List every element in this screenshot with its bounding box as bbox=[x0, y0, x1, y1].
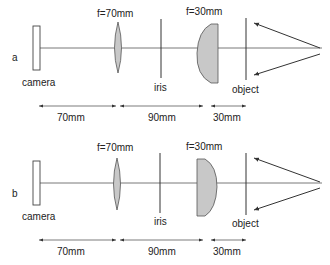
camera-label: camera bbox=[22, 211, 56, 222]
light-ray-arrow-bottom bbox=[254, 54, 320, 75]
panel-b: b camera f=70mm iris f=30mm object 70mm … bbox=[12, 141, 322, 257]
iris-label: iris bbox=[154, 82, 167, 93]
lens1-label: f=70mm bbox=[97, 8, 133, 19]
lens-f70 bbox=[114, 158, 121, 210]
camera-label: camera bbox=[22, 77, 56, 88]
distance-label-2: 90mm bbox=[148, 246, 176, 257]
lens1-label: f=70mm bbox=[97, 142, 133, 153]
lens-f30 bbox=[197, 24, 218, 83]
distance-label-2: 90mm bbox=[148, 112, 176, 123]
panel-label: b bbox=[12, 188, 18, 199]
lens2-label: f=30mm bbox=[186, 141, 222, 152]
lens-f70 bbox=[115, 22, 122, 73]
distance-label-1: 70mm bbox=[57, 112, 85, 123]
panel-a: a camera f=70mm iris f=30mm object 70mm … bbox=[12, 6, 322, 123]
lens2-label: f=30mm bbox=[186, 6, 222, 17]
light-ray-arrow-top bbox=[254, 158, 320, 182]
optical-diagram: a camera f=70mm iris f=30mm object 70mm … bbox=[0, 0, 330, 265]
light-ray-arrow-top bbox=[254, 23, 320, 48]
object-label: object bbox=[232, 84, 259, 95]
light-ray-arrow-bottom bbox=[254, 188, 320, 210]
distance-label-3: 30mm bbox=[213, 112, 241, 123]
distance-label-1: 70mm bbox=[57, 246, 85, 257]
object-label: object bbox=[232, 218, 259, 229]
panel-label: a bbox=[12, 52, 18, 63]
camera-sensor bbox=[33, 161, 40, 205]
distance-label-3: 30mm bbox=[213, 246, 241, 257]
iris-label: iris bbox=[154, 216, 167, 227]
lens-f30 bbox=[197, 159, 217, 216]
camera-sensor bbox=[33, 26, 40, 70]
